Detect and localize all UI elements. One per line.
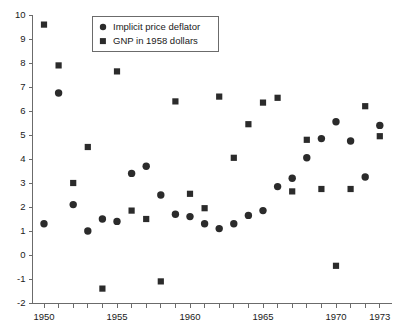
legend-label-gnp-in-1958-dollars: GNP in 1958 dollars xyxy=(113,35,198,46)
data-point-circle xyxy=(303,154,310,161)
data-point-circle xyxy=(143,163,150,170)
series-implicit-price-deflator xyxy=(40,89,383,234)
data-point-square xyxy=(114,68,120,74)
data-point-circle xyxy=(347,137,354,144)
data-point-square xyxy=(143,216,149,222)
data-point-square xyxy=(304,137,310,143)
data-point-circle xyxy=(40,220,47,227)
y-tick-label: 1 xyxy=(20,225,25,236)
x-tick-label: 1950 xyxy=(33,311,54,322)
y-axis-ticks: 109876543210-1-2 xyxy=(15,9,33,308)
data-point-square xyxy=(158,278,164,284)
data-point-square xyxy=(99,286,105,292)
data-point-square xyxy=(362,103,368,109)
data-point-square xyxy=(245,121,251,127)
data-point-circle xyxy=(157,191,164,198)
y-axis: 109876543210-1-2 xyxy=(15,9,33,308)
chart-legend: Implicit price deflator GNP in 1958 doll… xyxy=(93,17,219,52)
y-tick-label: 3 xyxy=(20,177,25,188)
data-point-square xyxy=(289,188,295,194)
data-point-circle xyxy=(113,218,120,225)
chart-canvas: 109876543210-1-2 19501955196019651970197… xyxy=(0,0,406,334)
data-point-circle xyxy=(245,212,252,219)
legend-marker-square-icon xyxy=(100,38,106,44)
x-tick-label: 1960 xyxy=(179,311,200,322)
data-point-circle xyxy=(55,89,62,96)
data-point-square xyxy=(41,22,47,28)
x-axis-tick-labels: 195019551960196519701973 xyxy=(33,311,390,322)
data-point-circle xyxy=(289,175,296,182)
data-point-square xyxy=(377,133,383,139)
y-tick-label: 6 xyxy=(20,105,25,116)
data-point-circle xyxy=(186,213,193,220)
y-tick-label: -1 xyxy=(17,273,25,284)
data-point-square xyxy=(260,100,266,106)
data-point-circle xyxy=(318,135,325,142)
x-axis: 195019551960196519701973 xyxy=(33,304,393,322)
data-point-square xyxy=(70,180,76,186)
data-point-square xyxy=(216,94,222,100)
y-tick-label: 5 xyxy=(20,129,25,140)
data-point-circle xyxy=(128,170,135,177)
x-tick-label: 1970 xyxy=(325,311,346,322)
data-point-square xyxy=(275,95,281,101)
data-point-circle xyxy=(70,201,77,208)
data-point-circle xyxy=(216,225,223,232)
data-point-circle xyxy=(172,211,179,218)
y-tick-label: 9 xyxy=(20,33,25,44)
series-gnp-in-1958-dollars xyxy=(41,22,383,292)
data-point-circle xyxy=(376,122,383,129)
x-tick-label: 1955 xyxy=(106,311,127,322)
data-point-square xyxy=(85,144,91,150)
y-tick-label: 10 xyxy=(15,9,26,20)
data-point-circle xyxy=(332,118,339,125)
data-point-square xyxy=(333,263,339,269)
y-tick-label: -2 xyxy=(17,297,25,308)
legend-label-implicit-price-deflator: Implicit price deflator xyxy=(113,21,200,32)
data-point-square xyxy=(187,191,193,197)
data-point-circle xyxy=(362,173,369,180)
x-tick-label: 1973 xyxy=(369,311,390,322)
y-tick-label: 4 xyxy=(20,153,25,164)
data-point-circle xyxy=(259,207,266,214)
data-point-circle xyxy=(84,227,91,234)
y-tick-label: 2 xyxy=(20,201,25,212)
y-tick-label: 8 xyxy=(20,57,25,68)
data-point-square xyxy=(56,62,62,68)
data-point-square xyxy=(348,186,354,192)
data-point-square xyxy=(129,208,135,214)
data-point-square xyxy=(318,186,324,192)
x-tick-label: 1965 xyxy=(252,311,273,322)
data-point-square xyxy=(202,205,208,211)
data-point-circle xyxy=(201,220,208,227)
data-point-circle xyxy=(99,215,106,222)
y-tick-label: 0 xyxy=(20,249,25,260)
data-point-circle xyxy=(274,183,281,190)
data-point-circle xyxy=(230,220,237,227)
data-point-square xyxy=(172,98,178,104)
legend-marker-circle-icon xyxy=(100,24,106,30)
x-axis-ticks xyxy=(44,304,380,308)
scatter-chart: 109876543210-1-2 19501955196019651970197… xyxy=(0,0,406,334)
data-point-square xyxy=(231,155,237,161)
y-tick-label: 7 xyxy=(20,81,25,92)
